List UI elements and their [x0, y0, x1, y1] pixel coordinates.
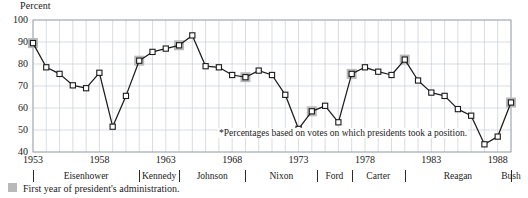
- x-axis-tick-1978: 1978: [345, 155, 385, 165]
- data-point-marker: [163, 46, 168, 51]
- data-point-marker: [389, 72, 394, 77]
- x-axis-tick-1983: 1983: [411, 155, 451, 165]
- data-point-marker: [336, 120, 341, 125]
- data-point-marker: [349, 71, 354, 76]
- legend-swatch: [8, 183, 17, 192]
- data-point-marker: [309, 109, 314, 114]
- data-point-marker: [30, 41, 35, 46]
- data-point-marker: [243, 75, 248, 80]
- data-point-marker: [137, 58, 142, 63]
- x-axis-tick-1968: 1968: [212, 155, 252, 165]
- data-point-marker: [455, 107, 460, 112]
- y-axis-tick-90: 90: [8, 37, 28, 47]
- data-point-marker: [415, 78, 420, 83]
- data-point-marker: [283, 92, 288, 97]
- x-axis-tick-1973: 1973: [279, 155, 319, 165]
- chart-root: Percent 10090807060504019531958196319681…: [0, 0, 528, 198]
- data-point-marker: [57, 71, 62, 76]
- data-point-marker: [508, 100, 513, 105]
- y-axis-tick-60: 60: [8, 103, 28, 113]
- footnote-text: *Percentages based on votes on which pre…: [218, 128, 468, 138]
- line-chart-plot: [0, 0, 528, 198]
- x-axis-tick-1963: 1963: [146, 155, 186, 165]
- data-point-marker: [150, 49, 155, 54]
- president-label-bush: Bush: [451, 171, 528, 181]
- data-point-marker: [376, 69, 381, 74]
- data-point-marker: [256, 68, 261, 73]
- data-point-marker: [469, 113, 474, 118]
- data-point-marker: [97, 70, 102, 75]
- data-point-marker: [70, 83, 75, 88]
- data-point-marker: [362, 65, 367, 70]
- y-axis-tick-50: 50: [8, 125, 28, 135]
- data-point-marker: [123, 93, 128, 98]
- data-point-marker: [190, 33, 195, 38]
- legend-label: First year of president's administration…: [23, 184, 180, 194]
- y-axis-tick-80: 80: [8, 59, 28, 69]
- data-point-marker: [495, 134, 500, 139]
- data-point-marker: [442, 93, 447, 98]
- data-point-marker: [323, 103, 328, 108]
- y-axis-tick-100: 100: [8, 15, 28, 25]
- data-point-marker: [84, 86, 89, 91]
- data-point-marker: [176, 43, 181, 48]
- data-point-marker: [216, 65, 221, 70]
- x-axis-tick-1988: 1988: [478, 155, 518, 165]
- data-point-marker: [44, 65, 49, 70]
- x-axis-tick-1953: 1953: [13, 155, 53, 165]
- y-axis-tick-70: 70: [8, 81, 28, 91]
- data-point-marker: [402, 57, 407, 62]
- data-point-marker: [110, 124, 115, 129]
- x-axis-tick-1958: 1958: [79, 155, 119, 165]
- data-point-marker: [429, 90, 434, 95]
- data-point-marker: [203, 64, 208, 69]
- data-point-marker: [230, 72, 235, 77]
- data-point-marker: [482, 142, 487, 147]
- data-point-marker: [269, 72, 274, 77]
